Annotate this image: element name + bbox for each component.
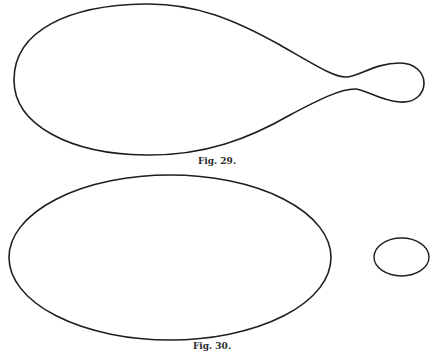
fig29-curve <box>14 4 424 155</box>
fig29-caption: Fig. 29. <box>198 156 236 166</box>
fig30-large-ellipse <box>9 175 331 340</box>
fig30-caption: Fig. 30. <box>193 341 231 351</box>
figures-canvas <box>0 0 431 352</box>
fig30-small-ellipse <box>374 238 429 276</box>
